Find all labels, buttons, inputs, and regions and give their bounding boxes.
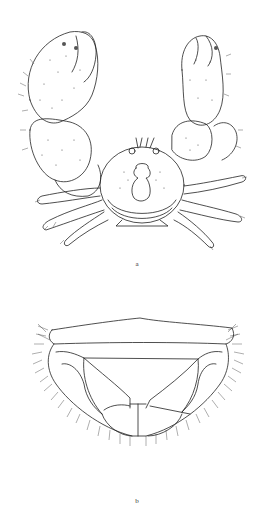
figure-label-a: a — [127, 260, 147, 268]
crab-drawing — [0, 0, 274, 250]
figure-label-b: b — [127, 497, 147, 505]
figure-a-crab-illustration — [0, 0, 274, 250]
figure-b-carapace-illustration — [0, 280, 274, 480]
carapace-drawing — [0, 280, 274, 480]
